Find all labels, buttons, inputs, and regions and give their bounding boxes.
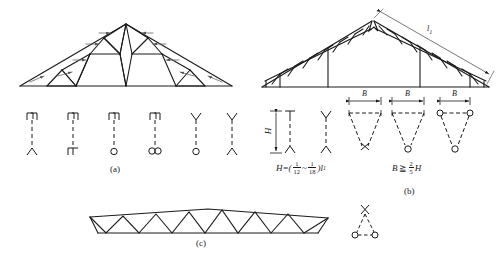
truss-a-web	[162, 54, 190, 70]
tripod-symbol-c1	[352, 205, 378, 238]
b-dimension-b5	[440, 97, 470, 105]
truss-a	[20, 24, 232, 86]
truss-a-web	[132, 38, 148, 54]
truss-a-web	[120, 54, 126, 86]
joint-symbol-a5	[191, 113, 201, 155]
truss-a-web	[47, 70, 62, 86]
truss-a-web	[126, 24, 148, 38]
l1-dimension-line	[374, 9, 494, 84]
truss-a-web	[176, 70, 190, 86]
caption-c: (c)	[196, 238, 206, 248]
B-label-1: B	[362, 89, 367, 98]
b-dimension-b3	[349, 97, 381, 105]
truss-a-web	[104, 24, 126, 38]
H-label: H	[263, 125, 273, 137]
B-label-3: B	[452, 89, 457, 98]
truss-b-web	[387, 29, 395, 34]
truss-c-right-end	[318, 218, 328, 233]
pin-circle	[372, 232, 378, 238]
caption-a: (a)	[110, 164, 120, 174]
pin-circle	[111, 148, 117, 154]
pin-circle	[437, 110, 443, 116]
joint-symbols-row-b	[270, 97, 473, 153]
l1-label: l1	[427, 24, 432, 35]
height-formula: H=(112~118)l1	[276, 160, 326, 175]
truss-c	[90, 209, 328, 233]
truss-a-web	[62, 54, 90, 70]
truss-a-web	[62, 70, 76, 86]
truss-a-web	[190, 70, 205, 86]
truss-diagram-figure	[0, 0, 500, 257]
truss-b-web	[348, 34, 355, 44]
pin-circle	[405, 146, 411, 152]
truss-b-web	[303, 58, 310, 68]
joint-symbols-row-a	[27, 113, 237, 155]
truss-c-web	[90, 210, 328, 233]
truss-c-top-chord	[90, 209, 328, 218]
pin-circle	[149, 148, 155, 154]
a-frame-symbol-b4	[392, 97, 424, 152]
joint-symbol-a6	[227, 113, 237, 155]
b-dimension-b4	[392, 97, 424, 105]
joint-symbol-a3	[109, 113, 119, 155]
truss-a-web	[76, 54, 90, 86]
a-frame-symbol-b3	[349, 97, 381, 150]
joint-symbol-a2	[68, 113, 78, 155]
truss-a-web	[126, 54, 132, 86]
pin-circle	[452, 146, 458, 152]
pin-circle	[155, 148, 161, 154]
B-label-2: B	[405, 89, 410, 98]
truss-a-web	[104, 38, 120, 54]
truss-b	[262, 9, 494, 87]
pin-circle	[193, 148, 199, 154]
joint-symbol-b1	[285, 111, 295, 153]
width-formula: B≧25H	[392, 160, 421, 175]
truss-a-web	[162, 54, 176, 86]
joint-symbol-a4	[149, 113, 161, 154]
joint-symbol-b2	[321, 111, 331, 153]
truss-c-left-end	[90, 217, 98, 233]
caption-b: (b)	[404, 186, 415, 196]
pin-circle	[352, 232, 358, 238]
truss-a-web	[120, 24, 126, 54]
a-frame-symbol-b5	[437, 97, 473, 152]
joint-symbol-a1	[27, 113, 37, 155]
truss-a-web	[126, 24, 132, 54]
truss-b-web	[440, 58, 447, 68]
pin-circle	[467, 110, 473, 116]
